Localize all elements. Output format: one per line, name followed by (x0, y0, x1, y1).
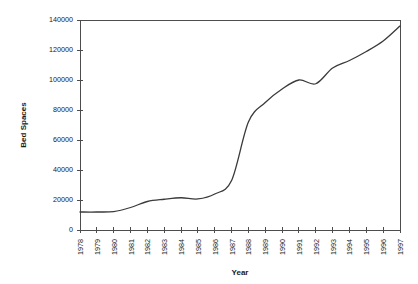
x-tick-label: 1994 (345, 239, 354, 255)
x-tick-label: 1990 (278, 239, 287, 255)
x-tick-label: 1997 (396, 239, 405, 255)
x-tick-label: 1995 (362, 239, 371, 255)
x-tick-label: 1984 (177, 239, 186, 255)
plot-frame (80, 20, 400, 230)
y-tick-label: 20000 (53, 195, 73, 204)
x-tick-label: 1981 (127, 239, 136, 255)
x-tick-label: 1983 (160, 239, 169, 255)
x-tick-label: 1985 (194, 239, 203, 255)
x-axis-title: Year (232, 268, 249, 277)
y-tick-label: 80000 (53, 105, 73, 114)
y-tick-label: 40000 (53, 165, 73, 174)
x-tick-label: 1982 (143, 239, 152, 255)
x-tick-label: 1987 (228, 239, 237, 255)
bed-spaces-line (80, 26, 400, 212)
y-tick-label: 60000 (53, 135, 73, 144)
x-tick-label: 1979 (93, 239, 102, 255)
x-tick-label: 1992 (312, 239, 321, 255)
line-chart: 020000400006000080000100000120000140000 … (0, 0, 418, 284)
x-tick-label: 1989 (261, 239, 270, 255)
x-tick-label: 1993 (329, 239, 338, 255)
x-tick-label: 1986 (211, 239, 220, 255)
y-tick-label: 100000 (49, 75, 73, 84)
x-tick-label: 1991 (295, 239, 304, 255)
y-axis-title: Bed Spaces (19, 102, 28, 148)
x-tick-label: 1980 (110, 239, 119, 255)
y-tick-label: 120000 (49, 45, 73, 54)
x-tick-label: 1978 (76, 239, 85, 255)
x-tick-label: 1996 (379, 239, 388, 255)
y-tick-label: 140000 (49, 15, 73, 24)
chart-container: 020000400006000080000100000120000140000 … (0, 0, 418, 284)
x-axis-tick-labels: 1978197919801981198219831984198519861987… (76, 239, 405, 255)
x-tick-label: 1988 (244, 239, 253, 255)
y-tick-label: 0 (69, 225, 73, 234)
y-axis-tick-labels: 020000400006000080000100000120000140000 (49, 15, 73, 234)
